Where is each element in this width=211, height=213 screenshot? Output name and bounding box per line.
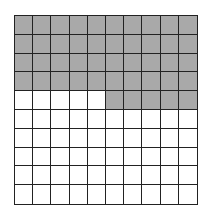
unshaded-cell [142, 129, 160, 148]
unshaded-cell [51, 91, 69, 110]
unshaded-cell [161, 185, 179, 204]
unshaded-cell [33, 129, 51, 148]
hundred-grid [14, 15, 198, 205]
shaded-cell [161, 72, 179, 91]
unshaded-cell [124, 129, 142, 148]
shaded-cell [142, 91, 160, 110]
unshaded-cell [33, 110, 51, 129]
unshaded-cell [33, 148, 51, 167]
shaded-cell [15, 54, 33, 73]
unshaded-cell [161, 166, 179, 185]
unshaded-cell [70, 166, 88, 185]
unshaded-cell [70, 91, 88, 110]
shaded-cell [15, 16, 33, 35]
unshaded-cell [15, 166, 33, 185]
unshaded-cell [51, 148, 69, 167]
unshaded-cell [142, 166, 160, 185]
shaded-cell [70, 54, 88, 73]
unshaded-cell [106, 148, 124, 167]
unshaded-cell [106, 110, 124, 129]
shaded-cell [106, 16, 124, 35]
unshaded-cell [15, 185, 33, 204]
unshaded-cell [15, 129, 33, 148]
shaded-cell [70, 72, 88, 91]
shaded-cell [142, 72, 160, 91]
unshaded-cell [124, 148, 142, 167]
unshaded-cell [15, 110, 33, 129]
unshaded-cell [70, 185, 88, 204]
shaded-cell [88, 72, 106, 91]
shaded-cell [106, 54, 124, 73]
unshaded-cell [51, 129, 69, 148]
unshaded-cell [15, 148, 33, 167]
unshaded-cell [15, 91, 33, 110]
shaded-cell [51, 72, 69, 91]
shaded-cell [124, 16, 142, 35]
shaded-cell [88, 16, 106, 35]
shaded-cell [33, 16, 51, 35]
unshaded-cell [88, 185, 106, 204]
shaded-cell [106, 91, 124, 110]
unshaded-cell [179, 110, 197, 129]
unshaded-cell [106, 129, 124, 148]
shaded-cell [51, 54, 69, 73]
shaded-cell [33, 54, 51, 73]
shaded-cell [161, 91, 179, 110]
unshaded-cell [88, 148, 106, 167]
shaded-cell [142, 16, 160, 35]
shaded-cell [179, 72, 197, 91]
unshaded-cell [124, 166, 142, 185]
shaded-cell [124, 35, 142, 54]
unshaded-cell [88, 110, 106, 129]
unshaded-cell [70, 148, 88, 167]
shaded-cell [124, 54, 142, 73]
shaded-cell [70, 35, 88, 54]
unshaded-cell [70, 110, 88, 129]
unshaded-cell [33, 185, 51, 204]
unshaded-cell [124, 110, 142, 129]
unshaded-cell [51, 166, 69, 185]
shaded-cell [33, 35, 51, 54]
unshaded-cell [88, 91, 106, 110]
unshaded-cell [106, 185, 124, 204]
shaded-cell [161, 54, 179, 73]
shaded-cell [51, 35, 69, 54]
shaded-cell [179, 16, 197, 35]
unshaded-cell [161, 110, 179, 129]
unshaded-cell [142, 185, 160, 204]
unshaded-cell [142, 148, 160, 167]
unshaded-cell [88, 129, 106, 148]
shaded-cell [142, 35, 160, 54]
unshaded-cell [179, 129, 197, 148]
unshaded-cell [161, 129, 179, 148]
shaded-cell [88, 54, 106, 73]
unshaded-cell [161, 148, 179, 167]
unshaded-cell [33, 91, 51, 110]
shaded-cell [106, 35, 124, 54]
shaded-cell [179, 35, 197, 54]
unshaded-cell [142, 110, 160, 129]
shaded-cell [124, 72, 142, 91]
shaded-cell [161, 35, 179, 54]
shaded-cell [15, 35, 33, 54]
unshaded-cell [33, 166, 51, 185]
shaded-cell [142, 54, 160, 73]
shaded-cell [179, 91, 197, 110]
unshaded-cell [106, 166, 124, 185]
shaded-cell [161, 16, 179, 35]
shaded-cell [51, 16, 69, 35]
shaded-cell [106, 72, 124, 91]
shaded-cell [124, 91, 142, 110]
shaded-cell [15, 72, 33, 91]
unshaded-cell [179, 148, 197, 167]
unshaded-cell [70, 129, 88, 148]
unshaded-cell [51, 110, 69, 129]
unshaded-cell [124, 185, 142, 204]
unshaded-cell [179, 185, 197, 204]
unshaded-cell [88, 166, 106, 185]
unshaded-cell [179, 166, 197, 185]
unshaded-cell [51, 185, 69, 204]
shaded-cell [179, 54, 197, 73]
shaded-cell [70, 16, 88, 35]
shaded-cell [88, 35, 106, 54]
